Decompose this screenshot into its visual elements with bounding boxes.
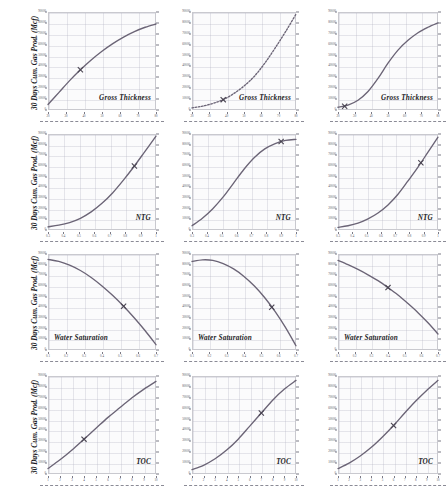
x-tick-label: 2 xyxy=(59,479,61,482)
y-tick-mark xyxy=(335,110,338,111)
y-tick-mark xyxy=(335,33,338,34)
y-tick-mark xyxy=(438,307,441,308)
y-tick-mark xyxy=(45,144,48,145)
y-tick-mark xyxy=(45,134,48,135)
y-tick-mark xyxy=(438,198,441,199)
y-tick-mark xyxy=(189,12,192,13)
y-tick-mark xyxy=(438,230,441,231)
y-tick-mark xyxy=(45,286,48,287)
y-tick-mark xyxy=(438,474,441,475)
y-tick-mark xyxy=(45,408,48,409)
y-tick-mark xyxy=(335,144,338,145)
y-tick-mark xyxy=(438,144,441,145)
y-tick-mark xyxy=(438,77,441,78)
y-tick-mark xyxy=(156,208,159,209)
y-tick-mark xyxy=(296,254,299,255)
y-tick-mark xyxy=(156,155,159,156)
y-tick-mark xyxy=(438,275,441,276)
x-axis-ticks: 20304050607080 xyxy=(48,112,156,121)
y-tick-mark xyxy=(438,419,441,420)
y-tick-mark xyxy=(45,99,48,100)
x-tick-label: 0.9 xyxy=(279,235,283,238)
y-tick-mark xyxy=(335,452,338,453)
y-tick-mark xyxy=(296,386,299,387)
y-tick-mark xyxy=(156,187,159,188)
panel-baseline-rule xyxy=(40,241,164,242)
y-tick-mark xyxy=(335,419,338,420)
x-tick-label: 0.4 xyxy=(242,355,246,358)
plot-panel-r2c3: NTG0100002000030000400005000060000700008… xyxy=(338,134,438,230)
plot-panel-r3c1: Water Saturation010000200003000040000500… xyxy=(48,254,156,350)
y-tick-mark xyxy=(438,208,441,209)
plot-panel-r4c2: TOC0100002000030000400005000060000700008… xyxy=(192,376,296,474)
y-tick-mark xyxy=(296,230,299,231)
y-tick-mark xyxy=(335,318,338,319)
x-tick-label: 3 xyxy=(214,479,216,482)
x-tick-label: 30 xyxy=(64,115,67,118)
y-axis-ticks-right xyxy=(296,376,309,474)
y-tick-mark xyxy=(156,350,159,351)
y-tick-mark xyxy=(438,408,441,409)
y-tick-mark xyxy=(189,110,192,111)
y-tick-mark xyxy=(335,44,338,45)
x-tick-label: 0.7 xyxy=(294,355,298,358)
y-tick-mark xyxy=(438,134,441,135)
x-tick-label: 50 xyxy=(386,115,389,118)
y-tick-mark xyxy=(438,339,441,340)
y-tick-mark xyxy=(45,452,48,453)
panel-variable-label: Water Saturation xyxy=(198,334,252,342)
y-tick-mark xyxy=(438,463,441,464)
y-tick-mark xyxy=(45,419,48,420)
y-tick-mark xyxy=(156,397,159,398)
y-tick-mark xyxy=(296,22,299,23)
y-axis-ticks-right xyxy=(438,134,447,230)
y-axis-title: 30 Days Cum. Gas Prod. (Mcf) xyxy=(30,16,39,110)
x-tick-label: 40 xyxy=(225,115,228,118)
x-tick-label: 10 xyxy=(154,479,157,482)
y-tick-mark xyxy=(189,66,192,67)
y-tick-mark xyxy=(189,386,192,387)
y-tick-mark xyxy=(156,144,159,145)
y-axis-ticks: 0100002000030000400005000060000700008000… xyxy=(324,254,337,350)
y-tick-mark xyxy=(335,376,338,377)
y-tick-mark xyxy=(296,318,299,319)
y-axis-ticks: 0100002000030000400005000060000700008000… xyxy=(178,134,191,230)
x-tick-label: 0.3 xyxy=(369,355,373,358)
y-tick-mark xyxy=(189,219,192,220)
y-tick-mark xyxy=(45,463,48,464)
y-tick-mark xyxy=(335,12,338,13)
y-tick-mark xyxy=(438,88,441,89)
y-tick-mark xyxy=(335,155,338,156)
y-tick-mark xyxy=(189,474,192,475)
y-tick-mark xyxy=(296,452,299,453)
x-tick-label: 0.4 xyxy=(61,235,65,238)
y-tick-mark xyxy=(156,166,159,167)
y-tick-mark xyxy=(189,144,192,145)
y-axis-ticks-right xyxy=(438,12,447,110)
y-tick-mark xyxy=(189,430,192,431)
plot-panel-r4c1: TOC0100002000030000400005000060000700008… xyxy=(48,376,156,474)
y-tick-mark xyxy=(45,318,48,319)
y-tick-mark xyxy=(335,77,338,78)
plot-panel-r3c3: Water Saturation010000200003000040000500… xyxy=(338,254,438,350)
y-axis-ticks-right xyxy=(296,134,309,230)
y-tick-mark xyxy=(438,350,441,351)
y-tick-mark xyxy=(156,99,159,100)
y-tick-mark xyxy=(156,88,159,89)
x-tick-label: 0.6 xyxy=(419,355,423,358)
y-tick-mark xyxy=(296,376,299,377)
x-tick-label: 60 xyxy=(403,115,406,118)
y-tick-mark xyxy=(189,198,192,199)
y-tick-mark xyxy=(189,350,192,351)
x-tick-label: 60 xyxy=(118,115,121,118)
y-tick-mark xyxy=(438,219,441,220)
y-tick-mark xyxy=(189,419,192,420)
y-tick-mark xyxy=(335,254,338,255)
panel-baseline-rule xyxy=(40,485,164,486)
y-axis-ticks: 0100002000030000400005000060000700008000… xyxy=(324,12,337,110)
y-tick-mark xyxy=(335,408,338,409)
x-tick-label: 5 xyxy=(95,479,97,482)
y-tick-mark xyxy=(296,166,299,167)
y-tick-mark xyxy=(438,110,441,111)
y-tick-mark xyxy=(296,88,299,89)
